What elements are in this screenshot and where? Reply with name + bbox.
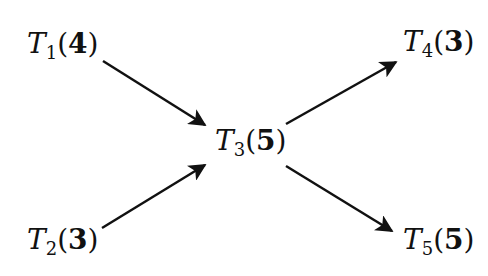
edge-t1-t3 <box>103 61 205 125</box>
node-t5: T5(5) <box>403 226 475 254</box>
node-t3: T3(5) <box>215 127 287 155</box>
node-t1: T1(4) <box>27 30 99 58</box>
node-t4: T4(3) <box>403 28 475 56</box>
edge-t3-t4 <box>286 62 396 124</box>
edge-t2-t3 <box>102 165 205 228</box>
edge-t3-t5 <box>286 166 392 231</box>
node-t2: T2(3) <box>27 226 99 254</box>
